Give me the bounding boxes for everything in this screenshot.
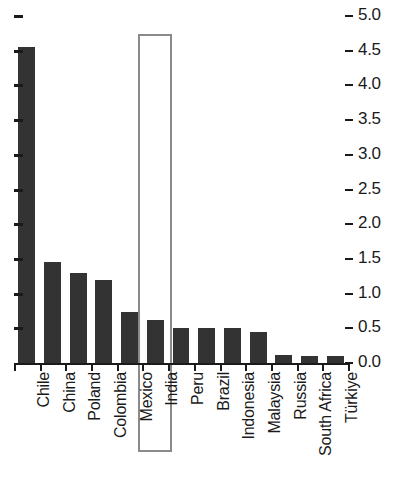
y-axis-tick-dash [345, 327, 353, 329]
bars-layer [14, 0, 348, 363]
y-axis-tick-dash [345, 223, 353, 225]
y-axis-tick-dash [345, 362, 353, 364]
bar-india [147, 320, 164, 363]
x-axis-label-russia: Russia [292, 372, 309, 485]
y-axis-tick-dash [345, 84, 353, 86]
y-axis-left-tick [14, 327, 23, 330]
y-axis-tick-dash [345, 189, 353, 191]
y-axis-left-tick [14, 50, 23, 53]
x-axis-tick [297, 364, 299, 371]
y-axis-tick-label: 3.0 [358, 144, 381, 164]
bar-mexico [121, 312, 138, 363]
x-axis-tick [348, 364, 350, 371]
x-axis-tick [40, 364, 42, 371]
x-axis-label-brazil: Brazil [215, 372, 232, 485]
y-axis-tick-label: 4.5 [358, 40, 381, 60]
bar-poland [70, 273, 87, 363]
bar-brazil [198, 328, 215, 363]
x-axis-label-peru: Peru [189, 372, 206, 485]
y-axis-left-tick [14, 154, 23, 157]
x-axis-tick [14, 364, 16, 371]
y-axis-tick-label: 1.5 [358, 248, 381, 268]
x-axis-tick [220, 364, 222, 371]
y-axis-tick-dash [345, 293, 353, 295]
y-axis-left-tick [14, 258, 23, 261]
y-axis-tick-label: 4.0 [358, 74, 381, 94]
bar-malaysia [250, 332, 267, 363]
y-axis-tick-label: 5.0 [358, 5, 381, 25]
bar-türkiye [327, 356, 344, 363]
y-axis-left-tick [14, 293, 23, 296]
x-axis-label-chile: Chile [35, 372, 52, 485]
bar-russia [275, 355, 292, 363]
bar-chart: 5.04.54.03.53.02.52.01.51.00.50.0 ChileC… [0, 0, 398, 485]
x-axis-tick [142, 364, 144, 371]
y-axis-tick-label: 2.5 [358, 179, 381, 199]
bar-chile [18, 47, 35, 363]
x-axis-tick [117, 364, 119, 371]
x-axis-label-south-africa: South Africa [317, 372, 334, 485]
bar-indonesia [224, 328, 241, 363]
x-axis-label-china: China [61, 372, 78, 485]
x-axis-label-malaysia: Malaysia [266, 372, 283, 485]
y-axis-tick-dash [345, 119, 353, 121]
y-axis-tick-label: 1.0 [358, 283, 381, 303]
x-axis-tick [91, 364, 93, 371]
y-axis-left-tick [14, 223, 23, 226]
bar-china [44, 262, 61, 363]
y-axis-tick-label: 3.5 [358, 109, 381, 129]
x-axis-tick [245, 364, 247, 371]
bar-peru [173, 328, 190, 363]
y-axis-tick-label: 0.0 [358, 352, 381, 372]
y-axis-tick-dash [345, 50, 353, 52]
y-axis-tick-label: 0.5 [358, 317, 381, 337]
y-axis-tick-dash [345, 154, 353, 156]
x-axis-label-indonesia: Indonesia [240, 372, 257, 485]
y-axis-left-tick [14, 84, 23, 87]
x-axis-tick [168, 364, 170, 371]
x-axis-label-colombia: Colombia [112, 372, 129, 485]
x-axis-label-india: India [163, 372, 180, 485]
y-axis-tick-dash [345, 15, 353, 17]
y-axis-left-tick [14, 189, 23, 192]
y-axis-tick-dash [345, 258, 353, 260]
x-axis-tick [65, 364, 67, 371]
bar-colombia [95, 280, 112, 363]
x-axis-tick [194, 364, 196, 371]
y-axis-tick-label: 2.0 [358, 213, 381, 233]
bar-south-africa [301, 356, 318, 363]
x-axis-tick [271, 364, 273, 371]
y-axis-left-tick [14, 119, 23, 122]
x-axis-tick [322, 364, 324, 371]
y-axis-left-tick [14, 15, 23, 18]
x-axis-label-mexico: Mexico [138, 372, 155, 485]
x-axis-label-türkiye: Türkiye [343, 372, 360, 485]
x-axis-label-poland: Poland [86, 372, 103, 485]
